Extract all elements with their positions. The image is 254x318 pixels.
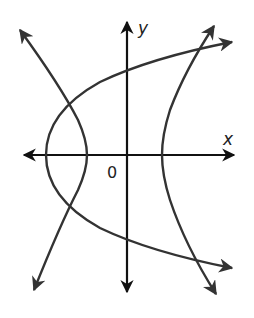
x-axis-label: x	[222, 129, 234, 149]
origin-label: 0	[107, 163, 117, 182]
hyperbola-left-branch	[20, 30, 87, 290]
coordinate-diagram: y x 0	[0, 0, 254, 318]
y-axis-label: y	[137, 18, 149, 38]
